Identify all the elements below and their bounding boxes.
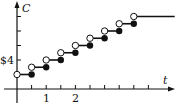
closed-endpoint — [43, 64, 49, 70]
open-endpoint — [72, 42, 78, 48]
y-axis-arrow-icon — [15, 1, 20, 8]
closed-endpoint — [87, 42, 93, 48]
x-axis-label: t — [163, 74, 168, 87]
open-endpoint — [131, 13, 137, 19]
y-tick-label-4: $4 — [0, 54, 14, 67]
open-endpoint — [87, 35, 93, 41]
x-axis-arrow-icon — [168, 87, 175, 92]
closed-endpoint — [28, 71, 34, 77]
open-endpoint — [101, 28, 107, 34]
closed-endpoint — [101, 35, 107, 41]
y-axis-label: C — [22, 2, 31, 15]
step-function-chart: C t $4 1 2 — [0, 0, 175, 108]
axes — [4, 4, 171, 103]
open-endpoint — [116, 21, 122, 27]
closed-endpoint — [72, 50, 78, 56]
closed-endpoint — [131, 21, 137, 27]
x-tick-label-1: 1 — [43, 92, 50, 105]
step-segments — [14, 13, 175, 77]
open-endpoint — [58, 50, 64, 56]
x-tick-label-2: 2 — [72, 92, 79, 105]
closed-endpoint — [58, 57, 64, 63]
open-endpoint — [14, 71, 20, 77]
closed-endpoint — [116, 28, 122, 34]
open-endpoint — [43, 57, 49, 63]
open-endpoint — [28, 64, 34, 70]
